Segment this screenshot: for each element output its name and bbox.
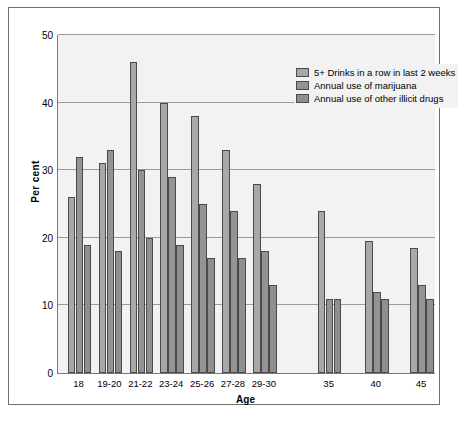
x-tick-label: 40 [370, 378, 381, 389]
chart-screenshot: 01020304050 Per cent 5+ Drinks in a row … [0, 0, 458, 430]
bar [253, 184, 261, 373]
bar [410, 248, 418, 373]
bar-group [191, 35, 215, 373]
legend-swatch-icon [296, 81, 309, 90]
bar-group [222, 35, 246, 373]
bar-group [160, 35, 184, 373]
bar [199, 204, 207, 373]
bar [168, 177, 176, 373]
bar [107, 150, 115, 373]
bar [318, 211, 326, 373]
bar [68, 197, 76, 373]
bar [160, 103, 168, 373]
x-tick-label: 21-22 [128, 378, 152, 389]
bar [326, 299, 334, 373]
bar [365, 241, 373, 373]
x-tick-label: 45 [416, 378, 427, 389]
bar [373, 292, 381, 373]
legend-item-label: Annual use of other illicit drugs [314, 93, 443, 104]
x-tick-label: 19-20 [97, 378, 121, 389]
legend-item: Annual use of marijuana [296, 79, 455, 92]
legend-item: Annual use of other illicit drugs [296, 92, 455, 105]
bar [418, 285, 426, 373]
y-tick-label: 40 [15, 97, 53, 108]
x-axis-title: Age [57, 394, 434, 405]
y-tick-label: 50 [15, 30, 53, 41]
bar [381, 299, 389, 373]
x-tick-label: 29-30 [252, 378, 276, 389]
bar [99, 163, 107, 373]
bar [115, 251, 123, 373]
bar [230, 211, 238, 373]
legend-swatch-icon [296, 94, 309, 103]
legend-swatch-icon [296, 68, 309, 77]
y-axis-title: Per cent [30, 142, 41, 222]
bar [146, 238, 154, 373]
legend-item-label: Annual use of marijuana [314, 80, 416, 91]
x-tick-label: 27-28 [221, 378, 245, 389]
legend-item: 5+ Drinks in a row in last 2 weeks [296, 66, 455, 79]
bar [191, 116, 199, 373]
bar-group [253, 35, 277, 373]
y-tick-label: 0 [15, 368, 53, 379]
bar-group [130, 35, 154, 373]
chart-legend: 5+ Drinks in a row in last 2 weeks Annua… [294, 64, 458, 108]
bar [138, 170, 146, 373]
legend-item-label: 5+ Drinks in a row in last 2 weeks [314, 67, 455, 78]
x-tick-label: 25-26 [190, 378, 214, 389]
bar [130, 62, 138, 373]
chart-frame: 01020304050 Per cent 5+ Drinks in a row … [8, 7, 440, 405]
bar-group [99, 35, 123, 373]
x-tick-label: 35 [323, 378, 334, 389]
x-tick-label: 23-24 [159, 378, 183, 389]
y-tick-label: 10 [15, 300, 53, 311]
bar [334, 299, 342, 373]
bar [207, 258, 215, 373]
plot-area: 5+ Drinks in a row in last 2 weeks Annua… [57, 35, 435, 374]
bar [76, 157, 84, 373]
bar [176, 245, 184, 373]
bar [222, 150, 230, 373]
bar [238, 258, 246, 373]
bar [261, 251, 269, 373]
bar [84, 245, 92, 373]
bar [269, 285, 277, 373]
y-tick-label: 20 [15, 232, 53, 243]
x-tick-label: 18 [73, 378, 84, 389]
bar [426, 299, 434, 373]
bar-group [68, 35, 92, 373]
